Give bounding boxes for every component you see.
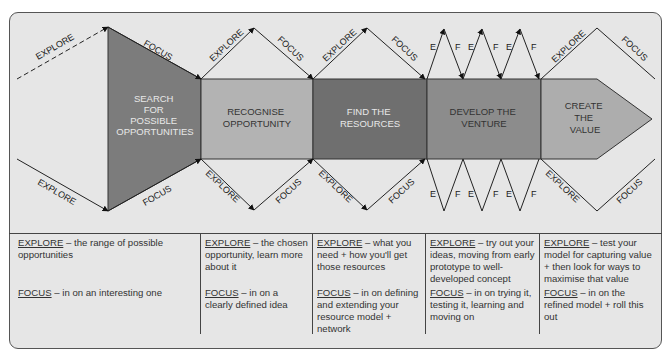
explore-label: EXPLORE xyxy=(544,168,582,204)
focus-label: FOCUS xyxy=(276,34,306,63)
svg-text:E: E xyxy=(506,42,512,52)
svg-text:E: E xyxy=(430,42,436,52)
svg-text:E: E xyxy=(430,189,436,199)
explore-label: EXPLORE xyxy=(317,168,355,204)
svg-text:E: E xyxy=(468,42,474,52)
description-search: EXPLORE – the range of possible opportun… xyxy=(14,234,200,344)
svg-text:E: E xyxy=(468,189,474,199)
explore-label: EXPLORE xyxy=(321,27,359,63)
stage-resources-label: FIND THE RESOURCES xyxy=(340,106,400,129)
svg-text:F: F xyxy=(455,189,461,199)
description-develop: EXPLORE – try out your ideas, moving fro… xyxy=(426,234,539,344)
explore-label: EXPLORE xyxy=(550,28,588,64)
stage-create-shape xyxy=(541,79,652,159)
svg-text:E: E xyxy=(506,189,512,199)
description-recognise: EXPLORE – the chosen opportunity, learn … xyxy=(201,234,312,344)
focus-label: FOCUS xyxy=(387,177,417,206)
stage-recognise-label: RECOGNISE OPPORTUNITY xyxy=(223,106,292,129)
svg-text:F: F xyxy=(493,189,499,199)
focus-label: FOCUS xyxy=(620,34,650,63)
description-create: EXPLORE – test your model for capturing … xyxy=(540,234,660,344)
svg-text:F: F xyxy=(531,189,537,199)
svg-text:F: F xyxy=(531,42,537,52)
explore-label: EXPLORE xyxy=(204,168,242,204)
focus-label: FOCUS xyxy=(390,34,420,63)
explore-label: EXPLORE xyxy=(208,27,246,63)
description-resources: EXPLORE – what you need + how you'll get… xyxy=(313,234,425,344)
focus-label: FOCUS xyxy=(274,177,304,206)
svg-text:F: F xyxy=(493,42,499,52)
svg-text:F: F xyxy=(455,42,461,52)
